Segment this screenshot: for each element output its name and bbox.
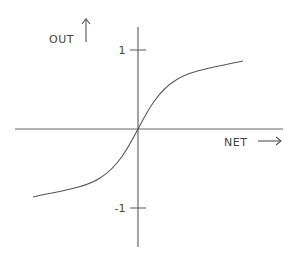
right-arrow-icon [258,137,281,145]
up-arrow-icon [82,19,90,42]
y-axis-label: OUT [49,33,74,46]
y-tick-label-plus-one: 1 [119,44,126,57]
x-axis-label: NET [224,136,247,149]
activation-function-chart: 1 -1 OUT NET [0,0,293,261]
y-tick-label-minus-one: -1 [115,202,126,215]
